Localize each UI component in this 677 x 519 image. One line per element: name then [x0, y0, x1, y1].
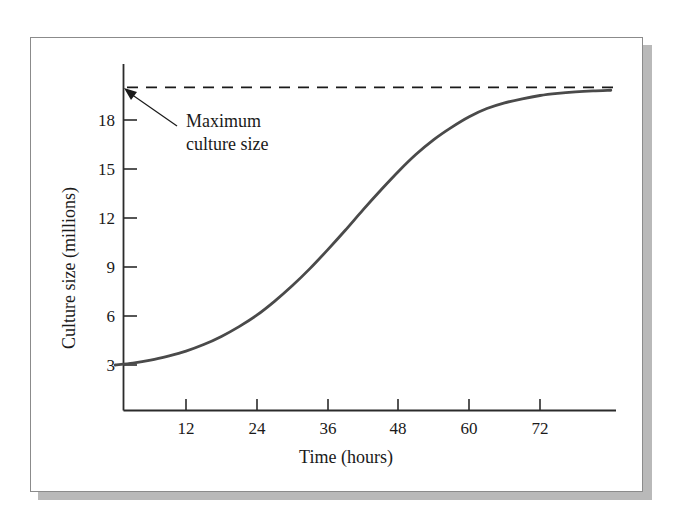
x-tick-label-12: 12 — [178, 419, 195, 438]
x-tick-label-60: 60 — [461, 419, 478, 438]
x-tick-label-36: 36 — [320, 419, 337, 438]
annotation-line-2: culture size — [186, 134, 268, 154]
y-tick-label-3: 3 — [107, 356, 116, 375]
annotation-arrowhead-icon — [124, 88, 137, 100]
x-tick-labels: 12 24 36 48 60 72 — [178, 419, 549, 438]
x-tick-label-48: 48 — [390, 419, 407, 438]
logistic-growth-chart: 18 15 12 9 6 3 12 24 36 48 60 72 Time (h… — [31, 38, 641, 490]
annotation-line-1: Maximum — [186, 111, 261, 131]
y-tick-label-15: 15 — [98, 160, 115, 179]
y-tick-marks — [124, 120, 137, 365]
x-tick-label-72: 72 — [532, 419, 549, 438]
y-tick-label-18: 18 — [98, 111, 115, 130]
y-axis-title: Culture size (millions) — [59, 187, 80, 349]
y-tick-label-12: 12 — [98, 209, 115, 228]
figure-frame: 18 15 12 9 6 3 12 24 36 48 60 72 Time (h… — [30, 37, 643, 492]
y-tick-label-9: 9 — [107, 258, 116, 277]
x-tick-marks — [186, 399, 540, 410]
x-tick-label-24: 24 — [249, 419, 267, 438]
y-tick-label-6: 6 — [107, 307, 116, 326]
annotation-leader-line — [131, 94, 177, 126]
growth-curve-line — [115, 90, 611, 365]
y-tick-labels: 18 15 12 9 6 3 — [98, 111, 115, 375]
x-axis-title: Time (hours) — [299, 447, 393, 468]
